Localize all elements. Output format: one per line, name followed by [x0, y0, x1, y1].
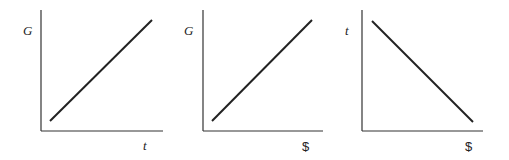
x-axis-label: $	[465, 139, 473, 154]
y-axis-label: t	[345, 23, 349, 38]
chart-g-vs-dollars: G $	[184, 10, 323, 154]
data-line	[372, 21, 473, 122]
x-axis-label: $	[302, 139, 310, 154]
y-axis-label: G	[184, 23, 194, 38]
chart-t-vs-dollars: t $	[345, 10, 483, 154]
data-line	[212, 20, 312, 121]
charts-figure: G t G $ t $	[0, 0, 509, 160]
x-axis-label: t	[143, 138, 147, 153]
chart-g-vs-t: G t	[23, 10, 163, 153]
y-axis-label: G	[23, 23, 33, 38]
data-line	[50, 20, 152, 121]
